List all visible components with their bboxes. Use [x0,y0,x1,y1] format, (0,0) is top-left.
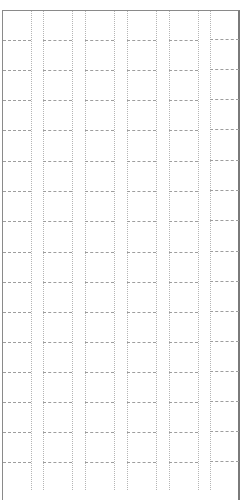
grid-horizontal-line [127,282,156,283]
grid-horizontal-line [43,161,72,162]
grid-horizontal-line [127,161,156,162]
grid-vertical-line [114,11,115,490]
grid-frame [2,10,240,500]
grid-horizontal-line [3,70,31,71]
grid-horizontal-line [169,402,198,403]
grid-horizontal-line [3,191,31,192]
grid-horizontal-line [43,432,72,433]
grid-horizontal-line [210,99,239,100]
grid-horizontal-line [43,40,72,41]
grid-horizontal-line [210,129,239,130]
grid-horizontal-line [210,160,239,161]
grid-horizontal-line [3,372,31,373]
grid-horizontal-line [85,282,114,283]
grid-horizontal-line [210,69,239,70]
grid-horizontal-line [127,191,156,192]
grid-vertical-line [127,11,128,490]
grid-horizontal-line [43,342,72,343]
grid-horizontal-line [210,401,239,402]
grid-horizontal-line [210,341,239,342]
grid-horizontal-line [43,191,72,192]
grid-horizontal-line [85,100,114,101]
grid-horizontal-line [43,70,72,71]
grid-horizontal-line [210,431,239,432]
grid-horizontal-line [169,40,198,41]
grid-horizontal-line [43,100,72,101]
grid-vertical-line [43,11,44,490]
grid-horizontal-line [3,40,31,41]
grid-horizontal-line [3,221,31,222]
grid-horizontal-line [127,342,156,343]
grid-horizontal-line [85,462,114,463]
grid-horizontal-line [127,462,156,463]
grid-horizontal-line [127,100,156,101]
grid-horizontal-line [210,281,239,282]
grid-horizontal-line [169,372,198,373]
grid-horizontal-line [85,402,114,403]
grid-horizontal-line [3,100,31,101]
grid-horizontal-line [169,130,198,131]
grid-horizontal-line [127,402,156,403]
grid-horizontal-line [85,252,114,253]
grid-horizontal-line [43,462,72,463]
grid-horizontal-line [85,432,114,433]
grid-horizontal-line [85,130,114,131]
grid-horizontal-line [127,252,156,253]
grid-horizontal-line [3,432,31,433]
grid-horizontal-line [127,221,156,222]
grid-horizontal-line [43,402,72,403]
grid-horizontal-line [169,221,198,222]
grid-vertical-line [72,11,73,490]
grid-horizontal-line [210,311,239,312]
grid-horizontal-line [85,70,114,71]
grid-horizontal-line [3,130,31,131]
grid-vertical-line [169,11,170,490]
grid-horizontal-line [3,312,31,313]
grid-horizontal-line [169,312,198,313]
grid-horizontal-line [127,70,156,71]
grid-horizontal-line [3,161,31,162]
grid-horizontal-line [169,191,198,192]
grid-horizontal-line [43,372,72,373]
grid-horizontal-line [210,39,239,40]
grid-horizontal-line [3,252,31,253]
grid-vertical-line [85,11,86,490]
grid-horizontal-line [127,432,156,433]
grid-horizontal-line [169,432,198,433]
grid-horizontal-line [3,462,31,463]
grid-horizontal-line [210,371,239,372]
grid-horizontal-line [85,342,114,343]
grid-horizontal-line [43,130,72,131]
grid-horizontal-line [169,342,198,343]
grid-horizontal-line [169,161,198,162]
faint-caption-text [2,0,34,6]
grid-horizontal-line [85,161,114,162]
grid-vertical-line [31,11,32,490]
grid-horizontal-line [169,252,198,253]
grid-horizontal-line [127,312,156,313]
grid-vertical-line [156,11,157,490]
grid-horizontal-line [85,372,114,373]
grid-horizontal-line [85,191,114,192]
grid-horizontal-line [169,70,198,71]
grid-horizontal-line [43,282,72,283]
grid-horizontal-line [127,40,156,41]
grid-horizontal-line [3,282,31,283]
grid-horizontal-line [169,282,198,283]
grid-horizontal-line [43,252,72,253]
grid-horizontal-line [210,251,239,252]
grid-horizontal-line [3,342,31,343]
grid-horizontal-line [85,312,114,313]
grid-vertical-line [198,11,199,490]
grid-horizontal-line [3,402,31,403]
grid-horizontal-line [169,462,198,463]
grid-horizontal-line [169,100,198,101]
grid-horizontal-line [127,372,156,373]
grid-horizontal-line [85,40,114,41]
grid-horizontal-line [43,312,72,313]
grid-horizontal-line [85,221,114,222]
grid-horizontal-line [210,220,239,221]
grid-horizontal-line [210,190,239,191]
grid-horizontal-line [43,221,72,222]
grid-horizontal-line [210,461,239,462]
